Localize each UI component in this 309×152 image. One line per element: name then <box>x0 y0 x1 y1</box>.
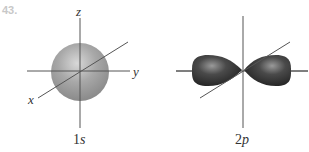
z-label: z <box>75 4 81 19</box>
orbital-2p <box>176 16 308 128</box>
caption-2p-letter: p <box>242 132 249 147</box>
orbital-diagrams: z y x <box>0 0 309 152</box>
lobe-left <box>192 55 242 86</box>
orbital-1s: z y x <box>27 4 139 128</box>
lobe-right <box>244 55 291 86</box>
y-label: y <box>131 64 139 79</box>
caption-1s: 1s <box>73 132 85 148</box>
caption-2p-number: 2 <box>235 132 242 147</box>
caption-2p: 2p <box>235 132 249 148</box>
caption-1s-letter: s <box>80 132 85 147</box>
x-label: x <box>27 92 34 107</box>
caption-1s-number: 1 <box>73 132 80 147</box>
